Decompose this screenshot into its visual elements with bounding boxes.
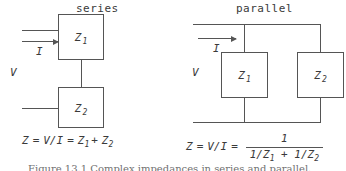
parallel-impedance-1-symbol: Z — [238, 69, 245, 82]
parallel-branch-1-bottom-wire — [244, 98, 245, 122]
parallel-eq-den-plus: + — [281, 148, 288, 161]
parallel-branch-2-top-wire — [320, 24, 321, 52]
parallel-equation: Z = V/I = 1 1/Z1 + 1/Z2 — [186, 132, 323, 160]
series-voltage-label: V — [10, 66, 17, 79]
series-impedance-2-subscript: 2 — [82, 107, 87, 116]
parallel-eq-equals-1: = — [197, 140, 204, 153]
series-interconnect-wire — [81, 60, 82, 87]
parallel-current-label: I — [213, 42, 220, 55]
parallel-eq-denominator: 1/Z1 + 1/Z2 — [246, 148, 323, 162]
parallel-eq-fraction: 1 1/Z1 + 1/Z2 — [246, 133, 323, 161]
parallel-impedance-1-subscript: 1 — [246, 75, 251, 84]
series-impedance-1-box: Z1 — [58, 14, 104, 60]
series-current-arrow — [22, 41, 58, 42]
parallel-eq-den-term-2-subscript: 2 — [314, 154, 319, 163]
series-eq-term-1-subscript: 1 — [84, 140, 89, 149]
parallel-eq-den-term-1: 1/Z — [250, 148, 270, 161]
parallel-heading: parallel — [236, 2, 293, 15]
parallel-eq-den-term-1-subscript: 1 — [270, 154, 275, 163]
parallel-current-arrow — [198, 38, 236, 39]
series-eq-equals-1: = — [33, 134, 40, 147]
series-eq-term-2: Z2 — [102, 134, 113, 147]
series-impedance-1-label: Z1 — [59, 31, 103, 44]
series-impedance-1-symbol: Z — [75, 31, 82, 44]
series-eq-plus: + — [91, 134, 98, 147]
series-current-label: I — [36, 45, 43, 58]
series-output-lead — [22, 108, 58, 109]
parallel-eq-ratio: V/I — [207, 140, 227, 153]
series-eq-term-2-subscript: 2 — [108, 140, 113, 149]
series-eq-lhs: Z — [22, 134, 29, 147]
parallel-eq-numerator: 1 — [277, 133, 292, 147]
series-eq-equals-2: = — [67, 134, 74, 147]
parallel-impedance-1-box: Z1 — [221, 52, 268, 98]
parallel-impedance-2-box: Z2 — [297, 52, 344, 98]
series-impedance-2-box: Z2 — [58, 87, 104, 128]
series-input-lead — [22, 30, 58, 31]
series-eq-ratio: V/I — [43, 134, 63, 147]
parallel-impedance-2-label: Z2 — [298, 69, 343, 82]
figure-caption: Figure 13.1 Complex impedances in series… — [28, 163, 311, 171]
series-impedance-1-subscript: 1 — [82, 37, 87, 46]
parallel-bottom-rail — [193, 122, 321, 123]
series-eq-term-1: Z1 — [78, 134, 89, 147]
parallel-eq-lhs: Z — [186, 140, 193, 153]
parallel-top-rail — [193, 24, 321, 25]
parallel-impedance-2-symbol: Z — [314, 69, 321, 82]
parallel-eq-equals-2: = — [231, 140, 238, 153]
series-impedance-2-label: Z2 — [59, 101, 103, 114]
series-impedance-2-symbol: Z — [75, 101, 82, 114]
parallel-branch-1-top-wire — [244, 24, 245, 52]
parallel-impedance-1-label: Z1 — [222, 69, 267, 82]
parallel-impedance-2-subscript: 2 — [322, 75, 327, 84]
parallel-voltage-label: V — [192, 66, 199, 79]
parallel-eq-den-term-2: 1/Z — [294, 148, 314, 161]
parallel-branch-2-bottom-wire — [320, 98, 321, 122]
series-equation: Z = V/I = Z1 + Z2 — [22, 134, 117, 147]
impedance-figure: series Z1 I Z2 V Z = V/I = Z1 + Z2 paral… — [0, 0, 346, 171]
